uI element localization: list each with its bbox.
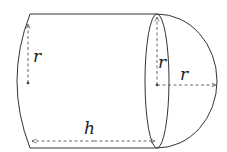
left-radius-label: r [33,46,42,66]
height-indicator: h [32,118,155,141]
left-radius-indicator: r [27,24,42,84]
height-label: h [84,118,95,138]
right-radius-indicators: r r [156,17,216,86]
cap-radius-label: r [180,64,189,84]
diagram-canvas: r r r h [0,0,227,152]
ellipse-radius-label: r [158,52,167,72]
